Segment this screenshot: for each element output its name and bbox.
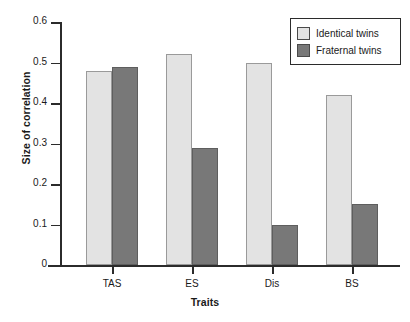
y-axis-tick-label: 0.5 xyxy=(33,56,47,67)
y-axis-tick-label: 0.2 xyxy=(33,177,47,188)
y-axis-tick-label: 0.3 xyxy=(33,137,47,148)
bar-es-identical xyxy=(166,54,192,265)
y-axis-tick: 0.6 xyxy=(51,22,60,24)
x-axis-tick-label-dis: Dis xyxy=(232,278,312,289)
x-axis-tick xyxy=(352,265,354,274)
legend-swatch-icon xyxy=(297,44,310,57)
x-axis-tick-label-es: ES xyxy=(152,278,232,289)
y-axis-title: Size of correlation xyxy=(20,38,32,198)
y-axis-tick: 0.5 xyxy=(51,63,60,65)
y-axis-tick: 0 xyxy=(51,265,60,267)
x-axis-tick-label-tas: TAS xyxy=(72,278,152,289)
y-axis-tick-label: 0.4 xyxy=(33,96,47,107)
bar-dis-identical xyxy=(246,63,272,266)
legend-swatch-icon xyxy=(297,27,310,40)
bar-dis-fraternal xyxy=(272,225,298,266)
bar-chart: Size of correlation Traits 00.10.20.30.4… xyxy=(0,0,410,322)
bar-tas-fraternal xyxy=(112,67,138,265)
legend-label: Identical twins xyxy=(316,28,379,39)
bar-bs-fraternal xyxy=(352,204,378,265)
x-axis-title: Traits xyxy=(0,296,410,308)
legend-label: Fraternal twins xyxy=(316,45,382,56)
y-axis-tick: 0.1 xyxy=(51,225,60,227)
bar-es-fraternal xyxy=(192,148,218,265)
bar-bs-identical xyxy=(326,95,352,265)
y-axis-tick-label: 0 xyxy=(41,258,47,269)
y-axis-tick: 0.2 xyxy=(51,184,60,186)
y-axis-tick-label: 0.1 xyxy=(33,218,47,229)
x-axis-line xyxy=(48,265,400,267)
y-axis-tick: 0.4 xyxy=(51,103,60,105)
x-axis-tick xyxy=(112,265,114,274)
x-axis-tick xyxy=(192,265,194,274)
x-axis-tick xyxy=(272,265,274,274)
y-axis-tick: 0.3 xyxy=(51,144,60,146)
legend-item-fraternal-twins: Fraternal twins xyxy=(297,42,394,58)
x-axis-tick-label-bs: BS xyxy=(312,278,392,289)
y-axis-tick-label: 0.6 xyxy=(33,15,47,26)
legend-item-identical-twins: Identical twins xyxy=(297,25,394,41)
y-axis-line xyxy=(60,22,62,265)
legend: Identical twinsFraternal twins xyxy=(290,18,401,65)
bar-tas-identical xyxy=(86,71,112,265)
